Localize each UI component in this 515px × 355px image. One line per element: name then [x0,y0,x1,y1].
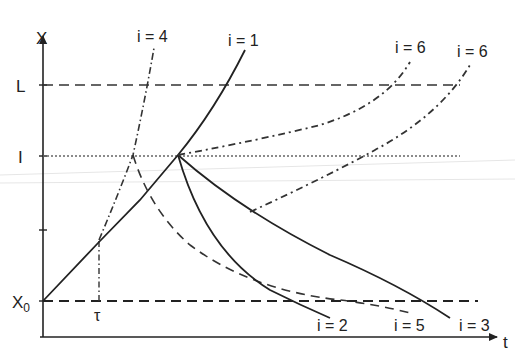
label-i5: i = 5 [394,317,425,334]
scan-artifact-line [0,179,515,183]
curve-i5 [133,155,410,313]
tick-label-I: I [18,148,23,167]
y-axis-label: X [36,29,47,48]
curve-i2 [178,155,330,318]
trajectory-diagram: X t L I X0 τ i = 4 i = 1 i = 6 i = 6 i =… [0,0,515,355]
tick-label-X0: X0 [12,293,30,315]
curve-i6-lower [250,65,470,212]
label-i2: i = 2 [317,317,348,334]
curve-i4-rise [99,48,154,240]
x-axis-label: t [503,333,508,352]
label-i6b: i = 6 [457,43,488,60]
label-i4: i = 4 [137,28,168,45]
tick-label-L: L [16,77,25,96]
scan-artifact-line [0,160,515,175]
label-i3: i = 3 [459,317,490,334]
label-i1: i = 1 [228,32,259,49]
label-i6a: i = 6 [395,39,426,56]
tau-label: τ [94,307,101,324]
curve-i1 [43,50,245,301]
